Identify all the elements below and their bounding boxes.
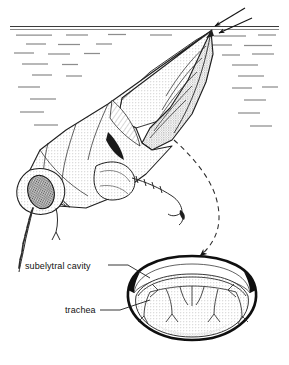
label-trachea: trachea — [65, 305, 96, 315]
abdomen-cross-section — [128, 256, 256, 340]
leg-middle-femur — [94, 162, 135, 200]
figure-canvas — [0, 0, 289, 365]
label-subelytral-cavity: subelytral cavity — [25, 261, 91, 271]
beetle-respiration-figure: subelytral cavity trachea — [0, 0, 289, 365]
